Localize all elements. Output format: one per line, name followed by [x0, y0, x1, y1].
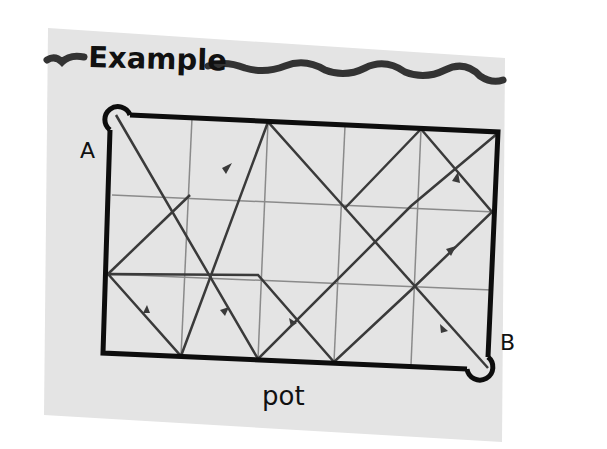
heading-title: Example	[88, 40, 228, 78]
label-start: A	[80, 138, 95, 163]
label-end: B	[500, 330, 515, 355]
label-pot: pot	[262, 381, 305, 411]
example-diagram: Example A B pot	[0, 0, 607, 449]
paper-background	[44, 28, 505, 442]
